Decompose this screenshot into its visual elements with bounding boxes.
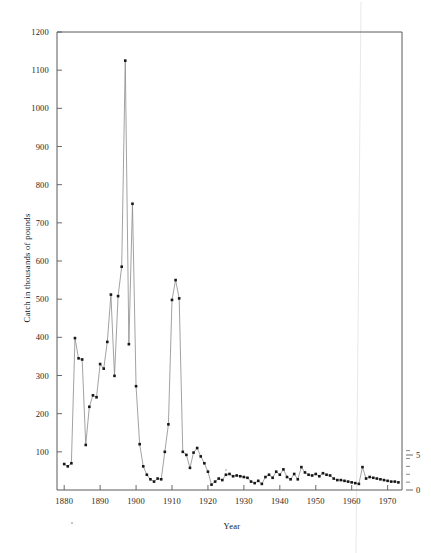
data-point-marker — [221, 479, 224, 482]
data-point-marker — [214, 480, 217, 483]
y-tick-label: 1000 — [31, 103, 49, 113]
data-point-marker — [365, 477, 368, 480]
y-tick-label: 600 — [36, 256, 49, 266]
data-point-marker — [376, 477, 379, 480]
data-point-marker — [171, 299, 174, 302]
data-point-marker — [102, 367, 105, 370]
data-point-marker — [149, 478, 152, 481]
data-point-marker — [318, 475, 321, 478]
x-tick-label: 1960 — [343, 496, 361, 506]
x-axis-title: Year — [224, 521, 241, 531]
data-point-marker — [199, 455, 202, 458]
x-tick-label: 1940 — [271, 496, 289, 506]
data-point-marker — [296, 478, 299, 481]
data-point-marker — [268, 473, 271, 476]
data-point-marker — [156, 477, 159, 480]
data-point-marker — [192, 451, 195, 454]
data-point-marker — [185, 454, 188, 457]
data-point-marker — [390, 480, 393, 483]
data-point-marker — [304, 471, 307, 474]
data-point-marker — [160, 478, 163, 481]
data-point-marker — [340, 479, 343, 482]
data-point-marker — [271, 476, 274, 479]
data-point-marker — [397, 481, 400, 484]
data-point-marker — [358, 483, 361, 486]
y-tick-label: 1100 — [32, 65, 50, 75]
data-point-marker — [88, 406, 91, 409]
data-point-marker — [307, 473, 310, 476]
data-point-marker — [81, 358, 84, 361]
data-point-marker — [336, 479, 339, 482]
data-point-marker — [135, 385, 138, 388]
data-point-marker — [246, 476, 249, 479]
plot-frame — [57, 32, 402, 490]
data-point-marker — [289, 478, 292, 481]
data-point-marker — [84, 444, 87, 447]
data-point-marker — [275, 470, 278, 473]
data-point-marker — [66, 465, 69, 468]
data-point-marker — [386, 480, 389, 483]
data-point-marker — [235, 474, 238, 477]
data-point-marker — [293, 473, 296, 476]
data-point-marker — [95, 396, 98, 399]
data-point-marker — [383, 479, 386, 482]
data-point-marker — [164, 451, 167, 454]
scan-speck — [71, 522, 73, 524]
data-point-marker — [232, 475, 235, 478]
data-point-marker — [178, 297, 181, 300]
data-point-marker — [210, 483, 213, 486]
scan-artifact-line — [356, 2, 361, 553]
secondary-axis-ticks: 05 — [406, 450, 420, 495]
data-point-marker — [153, 480, 156, 483]
data-point-marker — [347, 480, 350, 483]
data-point-marker — [117, 295, 120, 298]
data-point-marker — [250, 480, 253, 483]
data-point-marker — [131, 202, 134, 205]
data-point-marker — [257, 480, 260, 483]
data-point-marker — [361, 466, 364, 469]
data-point-marker — [332, 477, 335, 480]
data-point-marker — [325, 473, 328, 476]
data-point-marker — [343, 480, 346, 483]
scan-speck — [225, 469, 227, 471]
x-tick-label: 1890 — [91, 496, 109, 506]
catch-time-series-chart: 100200300400500600700800900100011001200 … — [0, 0, 431, 553]
data-point-marker — [113, 375, 116, 378]
data-point-marker — [124, 59, 127, 62]
data-series-line — [64, 61, 398, 485]
data-point-marker — [282, 468, 285, 471]
data-point-marker — [261, 483, 264, 486]
x-tick-label: 1930 — [235, 496, 253, 506]
data-point-marker — [181, 451, 184, 454]
data-point-marker — [243, 476, 246, 479]
data-point-marker — [329, 474, 332, 477]
data-point-marker — [350, 481, 353, 484]
data-point-marker — [70, 462, 73, 465]
secondary-tick-label: 0 — [416, 485, 420, 495]
data-point-marker — [394, 480, 397, 483]
data-point-marker — [106, 341, 109, 344]
data-point-marker — [77, 357, 80, 360]
y-tick-label: 500 — [36, 294, 49, 304]
y-tick-label: 300 — [36, 371, 49, 381]
y-tick-label: 700 — [36, 218, 49, 228]
data-point-marker — [217, 477, 220, 480]
data-point-marker — [279, 473, 282, 476]
data-point-marker — [146, 473, 149, 476]
data-point-marker — [253, 482, 256, 485]
data-point-marker — [63, 463, 66, 466]
data-point-marker — [99, 363, 102, 366]
data-points-layer — [63, 59, 400, 486]
data-point-marker — [368, 476, 371, 479]
figure-container: 100200300400500600700800900100011001200 … — [0, 0, 431, 553]
data-point-marker — [314, 473, 317, 476]
y-tick-label: 100 — [36, 447, 49, 457]
y-tick-label: 200 — [36, 409, 49, 419]
x-tick-label: 1920 — [199, 496, 217, 506]
data-point-marker — [322, 472, 325, 475]
x-axis-ticks: 1880189019001910192019301940195019601970 — [55, 485, 396, 506]
data-point-marker — [120, 265, 123, 268]
data-point-marker — [174, 279, 177, 282]
data-point-marker — [203, 462, 206, 465]
x-tick-label: 1970 — [379, 496, 397, 506]
